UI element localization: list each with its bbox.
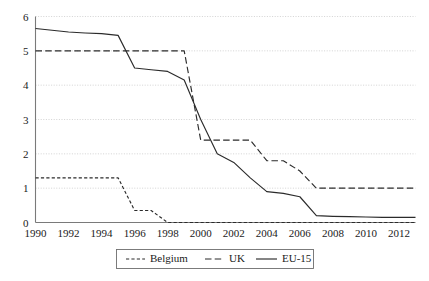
x-tick-label-2002: 2002 (223, 227, 245, 239)
line-chart: 0123456 19901992199419961998200020022004… (0, 0, 429, 281)
x-tick-label-2008: 2008 (322, 227, 345, 239)
data-series (36, 29, 416, 223)
y-tick-label-2: 2 (23, 148, 29, 160)
x-tick-label-2010: 2010 (355, 227, 378, 239)
y-tick-label-1: 1 (23, 182, 29, 194)
series-line-belgium (36, 178, 416, 223)
chart-canvas: 0123456 19901992199419961998200020022004… (0, 0, 429, 281)
legend-label-uk: UK (229, 252, 245, 264)
x-tick-label-1990: 1990 (25, 227, 48, 239)
x-axis-tick-labels: 1990199219941996199820002002200420062008… (25, 227, 410, 239)
series-line-eu-15 (36, 29, 416, 218)
x-tick-label-1992: 1992 (58, 227, 80, 239)
y-axis-tick-labels: 0123456 (23, 11, 29, 229)
x-tick-label-1994: 1994 (91, 227, 114, 239)
legend-label-eu-15: EU-15 (282, 252, 312, 264)
gridlines (36, 17, 416, 189)
legend-label-belgium: Belgium (150, 252, 188, 264)
y-tick-label-5: 5 (23, 45, 29, 57)
x-tick-label-2004: 2004 (256, 227, 279, 239)
x-tick-label-1998: 1998 (157, 227, 180, 239)
x-tick-label-2000: 2000 (190, 227, 213, 239)
x-tick-label-2006: 2006 (289, 227, 312, 239)
x-tick-label-2012: 2012 (388, 227, 410, 239)
chart-legend: BelgiumUKEU-15 (117, 250, 314, 269)
x-tick-label-1996: 1996 (124, 227, 147, 239)
y-tick-label-6: 6 (23, 11, 29, 23)
y-tick-label-3: 3 (23, 114, 29, 126)
y-tick-label-4: 4 (23, 79, 29, 91)
